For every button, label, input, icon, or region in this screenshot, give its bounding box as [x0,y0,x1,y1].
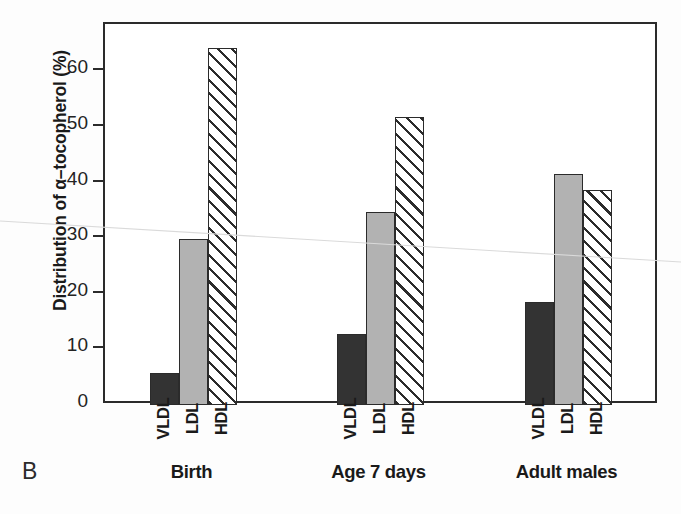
x-axis-category-label-hdl: HDL [586,384,605,454]
x-axis-group-label-adult-males: Adult males [467,461,667,483]
y-axis-tick-label: 50 [28,112,88,134]
y-axis-tick-label: 60 [28,56,88,78]
y-axis-tick-label: 0 [28,390,88,412]
y-axis-tick [93,68,103,70]
bar-birth-hdl [208,48,237,405]
plot-area [103,22,657,403]
x-axis-category-label-ldl: LDL [182,384,201,454]
x-axis-group-label-birth: Birth [92,461,292,483]
bar-birth-ldl [179,239,208,405]
bar-age-7-days-ldl [366,212,395,405]
x-axis-category-label-ldl: LDL [557,384,576,454]
figure-panel-b: Distribution of α–tocopherol (%) 0102030… [0,0,681,514]
bars-layer [105,24,659,405]
x-axis-category-label-vldl: VLDL [340,384,359,454]
x-axis-category-label-vldl: VLDL [528,384,547,454]
x-axis-category-label-hdl: HDL [398,384,417,454]
y-axis-tick-label: 10 [28,334,88,356]
x-axis-category-label-hdl: HDL [211,384,230,454]
x-axis-category-label-vldl: VLDL [153,384,172,454]
caption-ghost-artifact [8,497,673,510]
y-axis-tick [93,346,103,348]
y-axis-tick-label: 30 [28,223,88,245]
y-axis-tick [93,180,103,182]
x-axis-category-label-ldl: LDL [369,384,388,454]
y-axis-tick-label: 20 [28,279,88,301]
panel-letter: B [22,458,37,485]
y-axis-tick [93,291,103,293]
bar-age-7-days-hdl [395,117,424,405]
bar-adult-males-hdl [583,190,612,405]
y-axis-tick [93,124,103,126]
y-axis-tick-label: 40 [28,168,88,190]
bar-adult-males-ldl [554,174,583,405]
y-axis-tick [93,235,103,237]
x-axis-group-label-age-7-days: Age 7 days [279,461,479,483]
